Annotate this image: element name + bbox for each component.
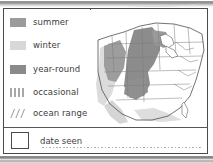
field-guide-range-card: summer winter year-round occasional ocea…	[0, 0, 213, 163]
legend-map-card: summer winter year-round occasional ocea…	[3, 8, 208, 154]
date-seen-label: date seen	[40, 136, 82, 146]
occasional-dotted-swatch-icon	[10, 88, 26, 97]
legend-label-winter: winter	[33, 40, 60, 50]
legend-item-ocean-range[interactable]: ocean range	[10, 108, 87, 118]
page-bottom-rule	[0, 155, 213, 163]
winter-swatch-icon	[10, 41, 26, 50]
legend-label-occasional: occasional	[33, 87, 79, 97]
legend-item-summer[interactable]: summer	[10, 17, 69, 27]
date-seen-row: date seen	[4, 128, 208, 154]
legend-item-year-round[interactable]: year-round	[10, 64, 80, 74]
legend-item-occasional[interactable]: occasional	[10, 87, 79, 97]
ocean-range-hatch-swatch-icon	[10, 109, 26, 118]
year-round-swatch-icon	[10, 65, 26, 74]
date-seen-write-in-line[interactable]	[42, 147, 202, 148]
range-map-svg	[90, 10, 207, 127]
date-seen-checkbox[interactable]	[11, 132, 29, 149]
range-map[interactable]	[90, 10, 207, 127]
legend-label-ocean-range: ocean range	[33, 108, 87, 118]
map-legend: summer winter year-round occasional ocea…	[4, 9, 90, 127]
legend-label-summer: summer	[33, 17, 69, 27]
legend-item-winter[interactable]: winter	[10, 40, 60, 50]
summer-swatch-icon	[10, 18, 26, 27]
legend-label-year-round: year-round	[33, 64, 80, 74]
